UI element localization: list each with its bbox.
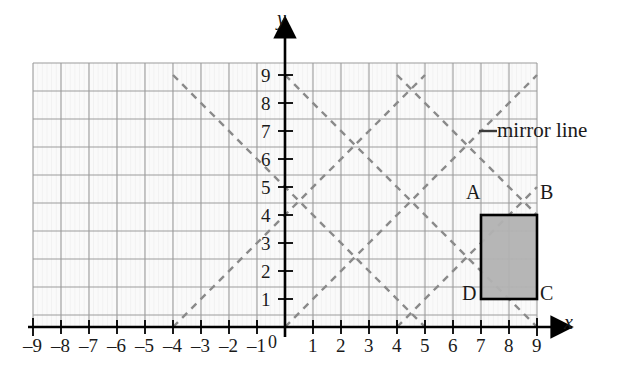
x-tick-label-9: 9 bbox=[532, 336, 542, 355]
y-tick-label-3: 3 bbox=[261, 234, 271, 253]
y-tick-label-1: 1 bbox=[261, 290, 271, 309]
y-tick-label-5: 5 bbox=[261, 178, 271, 197]
y-axis-label: y bbox=[277, 8, 286, 28]
origin-label: 0 bbox=[268, 333, 277, 351]
x-tick-label-4: 4 bbox=[392, 336, 402, 355]
x-tick-label--4: –4 bbox=[163, 336, 182, 355]
x-tick-label--6: –6 bbox=[107, 336, 126, 355]
x-tick-label--7: –7 bbox=[79, 336, 98, 355]
x-tick-label--8: –8 bbox=[51, 336, 70, 355]
vertex-label-a: A bbox=[466, 182, 480, 202]
x-tick-label-3: 3 bbox=[364, 336, 374, 355]
y-tick-label-4: 4 bbox=[261, 206, 271, 225]
y-tick-label-7: 7 bbox=[261, 122, 271, 141]
y-tick-label-6: 6 bbox=[261, 150, 271, 169]
y-tick-label-8: 8 bbox=[261, 94, 271, 113]
coordinate-plane-svg bbox=[0, 0, 622, 380]
vertex-label-b: B bbox=[540, 182, 553, 202]
x-tick-label-5: 5 bbox=[420, 336, 430, 355]
shape-rectangle-abcd bbox=[481, 215, 537, 299]
x-tick-label--5: –5 bbox=[135, 336, 154, 355]
vertex-label-c: C bbox=[540, 283, 553, 303]
diagram-canvas: y x 0 –9 –8 –7 –6 –5 –4 –3 –2 –1 1 2 3 4… bbox=[0, 0, 622, 380]
x-tick-label-2: 2 bbox=[336, 336, 346, 355]
x-tick-label--9: –9 bbox=[23, 336, 42, 355]
x-tick-label-7: 7 bbox=[476, 336, 486, 355]
y-tick-label-9: 9 bbox=[261, 66, 271, 85]
x-tick-label--1: –1 bbox=[247, 336, 266, 355]
vertex-label-d: D bbox=[462, 283, 476, 303]
x-tick-label--2: –2 bbox=[219, 336, 238, 355]
x-tick-label-1: 1 bbox=[308, 336, 318, 355]
x-tick-label--3: –3 bbox=[191, 336, 210, 355]
x-tick-label-6: 6 bbox=[448, 336, 458, 355]
y-tick-label-2: 2 bbox=[261, 262, 271, 281]
x-axis-label: x bbox=[564, 312, 573, 332]
mirror-line-label: mirror line bbox=[497, 120, 587, 141]
x-tick-label-8: 8 bbox=[504, 336, 514, 355]
